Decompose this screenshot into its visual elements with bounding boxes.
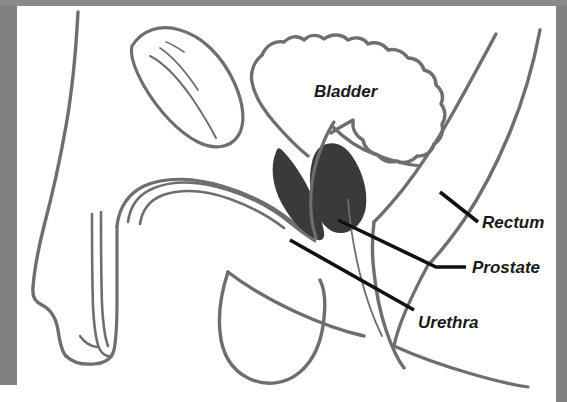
label-prostate: Prostate (472, 258, 540, 277)
border-left (0, 0, 17, 385)
border-right (556, 6, 567, 402)
anatomy-diagram: Bladder Rectum Prostate Urethra (0, 0, 567, 402)
border-top (0, 0, 567, 6)
label-urethra: Urethra (418, 313, 478, 332)
diagram-page: Bladder Rectum Prostate Urethra (0, 0, 567, 402)
label-rectum: Rectum (482, 213, 544, 232)
label-bladder: Bladder (314, 82, 379, 101)
